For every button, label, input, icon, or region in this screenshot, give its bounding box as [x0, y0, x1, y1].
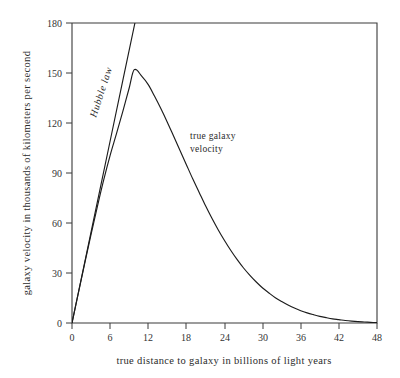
x-tick-label-6: 6	[108, 332, 113, 343]
y-tick-label-30: 30	[52, 268, 62, 279]
x-tick-label-12: 12	[143, 332, 153, 343]
x-tick-label-30: 30	[258, 332, 268, 343]
x-tick-label-0: 0	[70, 332, 75, 343]
x-tick-label-36: 36	[296, 332, 306, 343]
y-tick-label-90: 90	[52, 168, 62, 179]
y-tick-label-0: 0	[57, 318, 62, 329]
y-tick-label-60: 60	[52, 218, 62, 229]
y-tick-label-150: 150	[47, 68, 62, 79]
x-tick-label-24: 24	[220, 332, 230, 343]
annotation-true-galaxy-velocity-line1: true galaxy	[190, 131, 236, 141]
y-tick-label-120: 120	[47, 118, 62, 129]
y-tick-label-180: 180	[47, 18, 62, 29]
x-axis-title: true distance to galaxy in billions of l…	[116, 355, 331, 366]
y-axis-title: galaxy velocity in thousands of kilomete…	[21, 50, 32, 295]
x-tick-label-48: 48	[372, 332, 382, 343]
x-tick-label-42: 42	[334, 332, 344, 343]
x-tick-label-18: 18	[181, 332, 191, 343]
annotation-true-galaxy-velocity-line2: velocity	[190, 144, 223, 154]
hubble-law-chart: 180 150 120 90 60 30 0 0 6 12 18 24 30 3…	[0, 0, 400, 378]
